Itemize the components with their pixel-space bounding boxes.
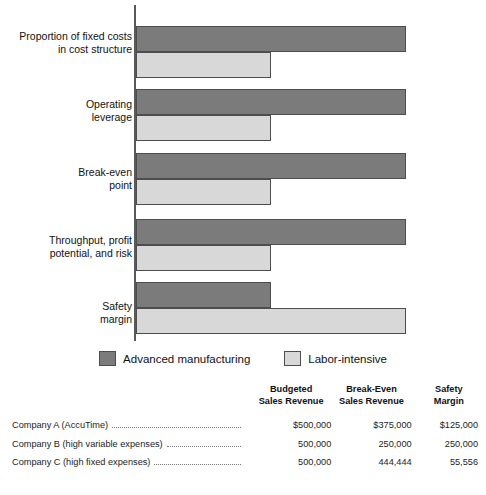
table-row: Company C (high fixed expenses) 500,000 …	[12, 453, 486, 471]
legend-label: Labor-intensive	[308, 353, 387, 365]
bar-labor-intensive	[136, 115, 271, 141]
table-header-row: Budgeted Sales Revenue Break-Even Sales …	[12, 384, 486, 416]
row-label-company-c: Company C (high fixed expenses)	[12, 453, 251, 471]
cell-margin: 55,556	[412, 453, 486, 471]
bar-group: Throughput, profit potential, and risk	[0, 216, 486, 276]
chart-plot-area: Proportion of fixed costs in cost struct…	[0, 0, 486, 345]
column-header-safety-margin: Safety Margin	[412, 384, 486, 416]
category-label: Safety margin	[0, 300, 132, 325]
cell-budgeted: 500,000	[251, 434, 331, 452]
legend-swatch-icon	[284, 351, 301, 366]
row-label-company-a: Company A (AccuTime)	[12, 416, 251, 434]
category-label: Break-even point	[0, 166, 132, 191]
bar-group: Break-even point	[0, 148, 486, 208]
bar-group: Safety margin	[0, 282, 486, 342]
column-header-company	[12, 384, 251, 416]
bar-labor-intensive	[136, 52, 271, 78]
chart-legend: Advanced manufacturing Labor-intensive	[0, 345, 486, 372]
legend-label: Advanced manufacturing	[123, 353, 250, 365]
cell-breakeven: 444,444	[331, 453, 411, 471]
column-header-budgeted-sales-revenue: Budgeted Sales Revenue	[251, 384, 331, 416]
column-header-break-even-sales-revenue: Break-Even Sales Revenue	[331, 384, 411, 416]
row-label-text: Company A (AccuTime)	[12, 420, 112, 430]
cell-budgeted: 500,000	[251, 453, 331, 471]
cell-margin: 250,000	[412, 434, 486, 452]
cell-breakeven: $375,000	[331, 416, 411, 434]
table-row: Company B (high variable expenses) 500,0…	[12, 434, 486, 452]
bar-advanced-manufacturing	[136, 282, 271, 308]
bar-chart-figure: Proportion of fixed costs in cost struct…	[0, 0, 486, 372]
leader-dots	[154, 464, 241, 465]
legend-swatch-icon	[99, 351, 116, 366]
category-label: Throughput, profit potential, and risk	[0, 234, 132, 259]
leader-dots	[167, 446, 241, 447]
bar-group: Proportion of fixed costs in cost struct…	[0, 12, 486, 72]
legend-item-advanced-manufacturing: Advanced manufacturing	[99, 351, 250, 366]
leader-dots	[112, 427, 241, 428]
table-row: Company A (AccuTime) $500,000 $375,000 $…	[12, 416, 486, 434]
cell-breakeven: 250,000	[331, 434, 411, 452]
row-label-text: Company B (high variable expenses)	[12, 439, 167, 449]
row-label-company-b: Company B (high variable expenses)	[12, 434, 251, 452]
cell-margin: $125,000	[412, 416, 486, 434]
cell-budgeted: $500,000	[251, 416, 331, 434]
category-label: Proportion of fixed costs in cost struct…	[0, 30, 132, 55]
category-label: Operating leverage	[0, 98, 132, 123]
row-label-text: Company C (high fixed expenses)	[12, 457, 154, 467]
bar-advanced-manufacturing	[136, 89, 406, 115]
legend-item-labor-intensive: Labor-intensive	[284, 351, 387, 366]
bar-advanced-manufacturing	[136, 153, 406, 179]
bar-labor-intensive	[136, 179, 271, 205]
safety-margin-table: Budgeted Sales Revenue Break-Even Sales …	[0, 384, 486, 495]
bar-group: Operating leverage	[0, 80, 486, 140]
bar-labor-intensive	[136, 245, 271, 271]
bar-advanced-manufacturing	[136, 26, 406, 52]
bar-labor-intensive	[136, 308, 406, 334]
bar-advanced-manufacturing	[136, 219, 406, 245]
comparison-table: Budgeted Sales Revenue Break-Even Sales …	[12, 384, 486, 471]
